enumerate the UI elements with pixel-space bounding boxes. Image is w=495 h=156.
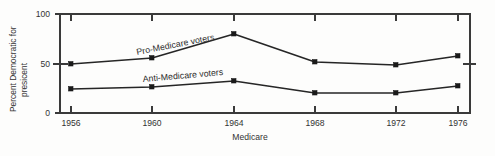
data-point-pro-1960	[150, 56, 154, 60]
ytick-label-50: 50	[40, 59, 50, 69]
series-pro-medicare	[69, 32, 460, 67]
xtick-label-1972: 1972	[386, 118, 405, 128]
series-anti-medicare	[69, 79, 460, 95]
data-point-anti-1960	[150, 85, 154, 89]
series-line-anti-medicare	[71, 81, 458, 93]
xtick-label-1964: 1964	[224, 118, 243, 128]
y-axis-title-line1: Percent Democratic for	[8, 26, 18, 112]
xtick-label-1968: 1968	[305, 118, 324, 128]
data-point-anti-1956	[69, 87, 73, 91]
data-point-anti-1976	[456, 84, 460, 88]
x-axis-title: Medicare	[232, 132, 268, 142]
xtick-label-1976: 1976	[448, 118, 467, 128]
top-axis-ticks	[71, 14, 458, 21]
xtick-label-1960: 1960	[142, 118, 161, 128]
data-point-anti-1972	[394, 91, 398, 95]
chart-figure: 100 50 0 1956 1960 1964 1968 1972 1976 M…	[0, 0, 495, 156]
y-axis-title-line2: presicent	[19, 62, 29, 97]
ytick-label-0: 0	[45, 108, 50, 118]
bottom-axis-ticks	[71, 106, 458, 113]
data-point-pro-1972	[394, 63, 398, 67]
series-annotation-pro-medicare: Pro-Medicare voters	[135, 32, 215, 57]
data-point-pro-1956	[69, 62, 73, 66]
data-point-pro-1968	[313, 60, 317, 64]
data-point-pro-1964	[232, 32, 236, 36]
data-point-anti-1964	[232, 79, 236, 83]
xtick-label-1956: 1956	[61, 118, 80, 128]
ytick-label-100: 100	[36, 9, 51, 19]
series-line-pro-medicare	[71, 34, 458, 65]
data-point-anti-1968	[313, 91, 317, 95]
data-point-pro-1976	[456, 54, 460, 58]
y-axis-ticks	[53, 14, 476, 113]
line-chart: 100 50 0 1956 1960 1964 1968 1972 1976 M…	[0, 0, 495, 156]
series-annotation-anti-medicare: Anti-Medicare voters	[142, 67, 224, 84]
